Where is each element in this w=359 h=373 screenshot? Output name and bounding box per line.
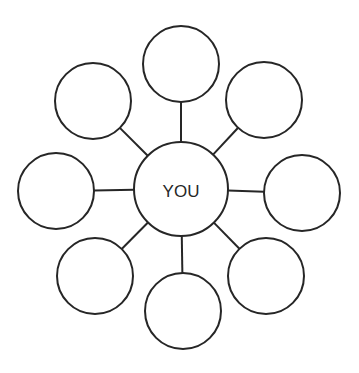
connector-top-left bbox=[120, 128, 148, 156]
connector-bottom-right bbox=[214, 223, 240, 249]
node-bottom-left bbox=[57, 238, 133, 314]
connector-top-right bbox=[213, 128, 238, 155]
node-bottom bbox=[145, 273, 221, 349]
center-label: YOU bbox=[163, 182, 200, 201]
node-top bbox=[143, 26, 219, 102]
node-right bbox=[264, 155, 340, 231]
node-bottom-right bbox=[228, 238, 304, 314]
node-top-left bbox=[55, 63, 131, 139]
center-node: YOU bbox=[134, 142, 228, 236]
node-top-right bbox=[226, 62, 302, 138]
node-left bbox=[18, 153, 94, 229]
connector-bottom-left bbox=[122, 222, 148, 249]
connector-right bbox=[228, 191, 264, 192]
connector-left bbox=[94, 190, 134, 191]
connector-bottom bbox=[182, 236, 183, 273]
mind-map-diagram: YOU bbox=[0, 0, 359, 373]
